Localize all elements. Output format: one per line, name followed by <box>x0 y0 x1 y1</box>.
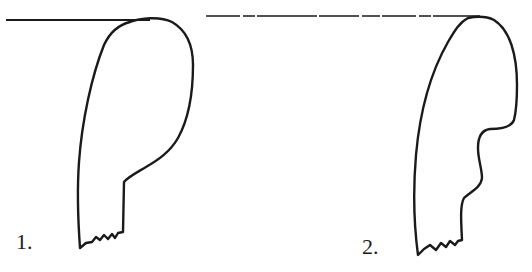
rim-profile-1 <box>78 18 193 248</box>
profile-1 <box>6 18 193 248</box>
sherd-profile-diagram <box>0 0 532 272</box>
figure-label-2: 2. <box>362 236 379 258</box>
figure-label-1: 1. <box>16 231 33 253</box>
profile-2 <box>206 16 517 255</box>
rim-profile-2 <box>414 17 517 255</box>
